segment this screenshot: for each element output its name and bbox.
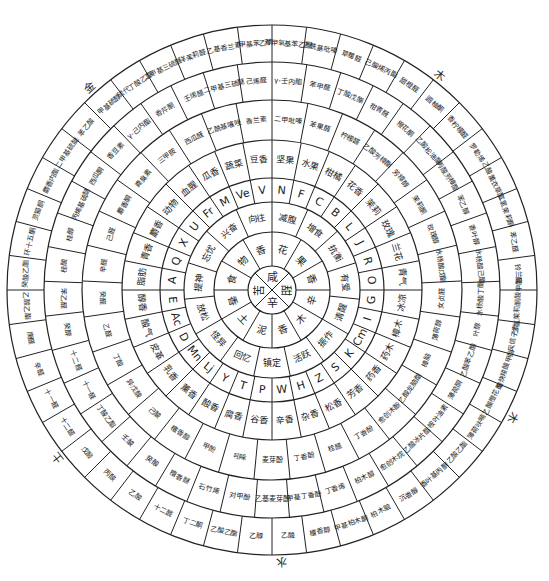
ring-dividers bbox=[7, 25, 537, 555]
wheel-label-ring-4: 血腥 bbox=[178, 178, 199, 198]
wheel-label-ring-7: 乙酸 bbox=[127, 487, 144, 502]
wheel-label-ring-3: B bbox=[328, 205, 342, 220]
wheel-label-ring-2: 镇定 bbox=[263, 357, 281, 368]
wheel-label-ring-2: 振作 bbox=[316, 328, 336, 349]
wheel-label-ring-7: 香叶基丙酮 bbox=[418, 460, 450, 490]
wheel-label-ring-7: 乙酸橙花酯 bbox=[481, 381, 505, 416]
wheel-label-ring-7: 乙基香兰素 bbox=[206, 40, 242, 56]
wheel-label-ring-6: 水杨酸己酯 bbox=[474, 248, 487, 284]
wheel-label-ring-6: 十二醛 bbox=[68, 349, 84, 372]
wheel-label-ring-7: 罗勒烯 bbox=[468, 142, 487, 164]
wheel-label-ring-4: 青气 bbox=[397, 268, 410, 287]
wheel-label-ring-5: 丁酸 bbox=[111, 352, 125, 368]
wheel-label-ring-7: 乙酰基吡嗪 bbox=[302, 40, 338, 56]
wheel-label-ring-3: N bbox=[277, 184, 286, 198]
wheel-label-ring-3: F bbox=[296, 187, 306, 201]
wheel-label-ring-4: 药香 bbox=[364, 363, 383, 383]
wheel-label-ring-4: 水果 bbox=[300, 156, 320, 172]
wheel-label-ring-2: 有爱 bbox=[339, 273, 352, 292]
wheel-label-ring-7: 苯乙酸 bbox=[76, 116, 97, 138]
wheel-label-ring-3: O bbox=[365, 275, 379, 285]
wheel-label-ring-3: Y bbox=[218, 370, 231, 385]
wheel-label-ring-4: 茉莉 bbox=[364, 196, 384, 217]
wheel-label-ring-6: 壬烯醛 bbox=[182, 88, 205, 104]
wheel-label-ring-5: 乙醛 bbox=[101, 322, 113, 338]
sector-divider bbox=[218, 434, 229, 472]
wheel-label-ring-5: 香兰素 bbox=[245, 115, 267, 126]
wheel-label-ring-0: 辛 bbox=[267, 296, 278, 310]
sector-divider bbox=[330, 296, 360, 299]
wheel-label-ring-5: 三甲胺 bbox=[156, 146, 178, 166]
sector-divider bbox=[236, 210, 248, 237]
wheel-label-ring-6: 癸酸 bbox=[144, 453, 161, 468]
wheel-label-ring-7: 十二醛 bbox=[58, 415, 77, 437]
wheel-label-ring-5: 玫瑰醇 bbox=[425, 223, 440, 246]
wheel-label-ring-6: 丙酸芳樟酯 bbox=[435, 159, 462, 193]
wheel-label-ring-6: 乙基麦芽酚 bbox=[255, 494, 290, 503]
wheel-label-ring-5: 愈创木酚 bbox=[376, 400, 402, 426]
wheel-label-ring-3: L bbox=[342, 220, 356, 234]
wheel-label-ring-6: 对甲酚 bbox=[229, 490, 251, 502]
wheel-label-ring-3: I bbox=[361, 316, 374, 323]
wheel-label-ring-5: 粪臭素 bbox=[133, 167, 154, 189]
sector-divider bbox=[16, 349, 52, 359]
wheel-label-ring-7: 乙酸乙酯 bbox=[209, 524, 238, 538]
sector-divider bbox=[243, 143, 250, 180]
wheel-label-ring-2: 提神 bbox=[192, 273, 205, 292]
wheel-label-ring-6: 甲基丁香酚 bbox=[286, 489, 322, 503]
sector-divider bbox=[420, 311, 460, 317]
sector-divider bbox=[250, 180, 255, 204]
sector-divider bbox=[82, 281, 122, 283]
sector-divider bbox=[382, 261, 419, 268]
sector-divider bbox=[237, 516, 242, 553]
sector-divider bbox=[294, 143, 301, 180]
wheel-label-ring-5: 丁香酚 bbox=[293, 450, 315, 463]
wheel-label-ring-6: 柑青醛 bbox=[368, 101, 391, 119]
wheel-label-ring-6: 癸醇 bbox=[62, 322, 74, 337]
element-marker: 水 bbox=[276, 555, 287, 568]
sector-divider bbox=[343, 466, 357, 501]
sector-divider bbox=[250, 376, 255, 400]
wheel-label-ring-3: Q bbox=[169, 255, 184, 267]
wheel-label-ring-5: 辛醛 bbox=[98, 258, 109, 273]
wheel-label-ring-5: 茉莉酮 bbox=[411, 193, 429, 216]
wheel-label-ring-6: 檀香醚 bbox=[168, 468, 191, 485]
wheel-label-ring-7: 戊酸 bbox=[79, 444, 95, 460]
wheel-label-ring-7: 二甲基硫醚 bbox=[53, 136, 80, 170]
sector-divider bbox=[184, 296, 214, 299]
wheel-label-ring-7: 己酸烯丙酯 bbox=[364, 57, 399, 81]
sector-divider bbox=[358, 307, 382, 312]
wheel-label-ring-3: G bbox=[365, 295, 379, 305]
wheel-label-ring-5: 吲哚 bbox=[232, 451, 247, 462]
sector-divider bbox=[220, 475, 229, 512]
wheel-label-ring-4: 动物 bbox=[160, 196, 180, 217]
wheel-label-ring-3: J bbox=[353, 237, 366, 247]
sector-divider bbox=[188, 263, 217, 272]
element-marker: 土 bbox=[49, 449, 66, 466]
wheel-label-ring-4: 皮革 bbox=[148, 341, 166, 362]
wheel-label-ring-3: U bbox=[187, 219, 202, 233]
wheel-label-ring-5: 乙酸龙脑酯 bbox=[396, 371, 424, 405]
wheel-label-ring-3: K bbox=[342, 346, 357, 360]
wheel-label-ring-6: 西瓜酮 bbox=[88, 165, 106, 187]
wheel-label-ring-1: 泥 bbox=[255, 322, 268, 336]
wheel-label-ring-5: 薄荷醇 bbox=[430, 319, 444, 342]
wheel-label-ring-3: Lj bbox=[201, 359, 216, 375]
wheel-label-ring-5: 癸醛 bbox=[98, 291, 108, 305]
wheel-label-ring-3: Ac bbox=[168, 311, 184, 328]
wheel-label-ring-4: 樟木 bbox=[389, 318, 405, 338]
wheel-label-ring-6: 橙花酮 bbox=[394, 118, 416, 138]
wheel-label-ring-7: 草莓醛 bbox=[340, 48, 363, 63]
sector-divider bbox=[498, 255, 535, 260]
wheel-label-ring-2: 清醒 bbox=[333, 302, 349, 323]
wheel-label-ring-5: 柠檬醛 bbox=[339, 130, 362, 148]
wheel-label-ring-3: H bbox=[295, 378, 307, 393]
wheel-label-ring-7: 十二醛 bbox=[152, 502, 175, 519]
wheel-label-ring-4: 酸气 bbox=[139, 318, 155, 338]
wheel-label-ring-2: 怪异 bbox=[208, 328, 228, 349]
wheel-label-ring-3: P bbox=[258, 383, 266, 397]
wheel-label-ring-4: 蔬菜 bbox=[224, 156, 244, 172]
wheel-label-ring-5: 桂醛 bbox=[327, 441, 343, 455]
sector-divider bbox=[286, 439, 290, 479]
wheel-label-ring-5: 芳樟醇 bbox=[391, 167, 412, 189]
